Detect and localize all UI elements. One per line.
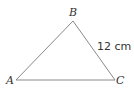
side-label-bc: 12 cm xyxy=(97,40,131,53)
vertex-label-b: B xyxy=(68,6,77,19)
vertex-label-a: A xyxy=(5,74,14,87)
vertex-label-c: C xyxy=(116,74,125,87)
triangle-diagram: B A C 12 cm xyxy=(0,0,134,97)
